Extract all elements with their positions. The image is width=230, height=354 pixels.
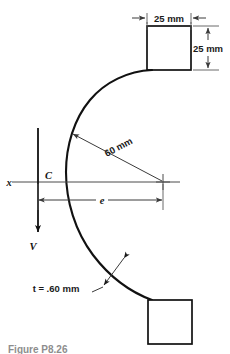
- thickness-dimension: t = .60 mm: [33, 258, 124, 294]
- eccentricity-dimension: e: [38, 184, 163, 210]
- shear-force-v: V: [29, 128, 38, 252]
- flange-height-label: 25 mm: [193, 43, 223, 54]
- engineering-diagram: 25 mm 25 mm x 60 mm: [0, 0, 230, 354]
- figure-container: 25 mm 25 mm x 60 mm: [0, 0, 230, 354]
- radius-dimension: 60 mm: [73, 134, 162, 181]
- centroid-marker: C: [45, 170, 53, 181]
- x-axis-line: x: [5, 177, 180, 188]
- bottom-flange-square: [148, 300, 192, 344]
- flange-width-label: 25 mm: [154, 13, 184, 24]
- right-height-dimension: 25 mm: [193, 26, 223, 70]
- shear-force-label: V: [29, 241, 37, 252]
- semicircular-wall: [66, 70, 152, 300]
- top-flange-square: [147, 26, 191, 70]
- thickness-label: t = .60 mm: [33, 283, 80, 294]
- caption-text: Figure P8.26: [8, 344, 68, 354]
- eccentricity-label: e: [100, 195, 105, 206]
- radius-label: 60 mm: [102, 135, 134, 159]
- x-axis-label: x: [5, 177, 11, 188]
- figure-caption: Figure P8.26: [8, 344, 68, 354]
- centroid-label: C: [45, 170, 53, 181]
